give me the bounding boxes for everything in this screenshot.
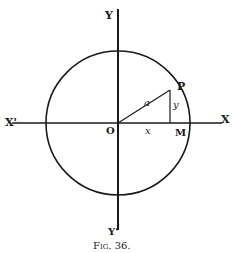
label-radius-a: a <box>144 97 150 108</box>
label-point-m: M <box>175 127 186 138</box>
label-y-segment: y <box>172 99 179 110</box>
label-x-left: X' <box>5 116 17 129</box>
label-y-top: Y <box>104 9 113 22</box>
label-origin: O <box>106 125 115 136</box>
label-point-p: P <box>177 80 185 93</box>
label-y-bottom: Y' <box>107 226 118 237</box>
unit-circle-diagram: Y Y' X' X O P M a x y Fig. 36. <box>0 0 233 253</box>
label-x-right: X <box>221 113 230 126</box>
label-x-segment: x <box>145 125 151 136</box>
figure-caption: Fig. 36. <box>93 240 131 251</box>
